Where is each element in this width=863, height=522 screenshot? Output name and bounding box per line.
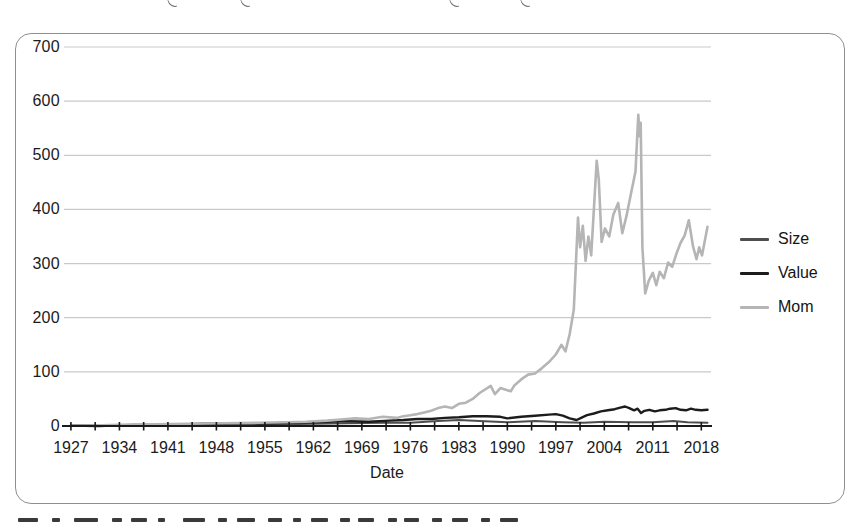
cropped-glyph-fragment <box>500 518 518 522</box>
cropped-glyph-fragment <box>112 518 122 522</box>
cropped-glyph-fragment <box>52 518 60 522</box>
x-tick-label-1969: 1969 <box>344 439 380 457</box>
cropped-glyph-fragment <box>340 518 350 522</box>
x-tick-label-1927: 1927 <box>53 439 89 457</box>
cropped-glyph-fragment <box>519 0 530 9</box>
y-tick-label-200: 200 <box>18 309 60 327</box>
cropped-glyph-fragment <box>131 518 147 522</box>
x-tick-label-1976: 1976 <box>393 439 429 457</box>
x-tick-label-1990: 1990 <box>490 439 526 457</box>
figure-page: 7006005004003002001000 19271934194119481… <box>0 0 863 522</box>
chart-panel: 7006005004003002001000 19271934194119481… <box>15 33 845 504</box>
cropped-glyph-fragment <box>388 518 397 522</box>
y-tick-label-400: 400 <box>18 200 60 218</box>
legend-line-swatch <box>740 238 769 241</box>
cropped-glyph-fragment <box>311 518 328 522</box>
cropped-glyph-fragment <box>268 518 282 522</box>
legend-line-swatch <box>740 306 769 309</box>
x-tick-label-1983: 1983 <box>441 439 477 457</box>
x-tick-label-2011: 2011 <box>636 439 670 457</box>
y-tick-label-600: 600 <box>18 92 60 110</box>
cropped-text-bottom <box>0 515 863 522</box>
cropped-glyph-fragment <box>237 518 255 522</box>
cropped-glyph-fragment <box>481 518 490 522</box>
legend-label: Value <box>778 264 818 282</box>
x-tick-label-2018: 2018 <box>684 439 720 457</box>
x-tick-label-1962: 1962 <box>296 439 332 457</box>
cropped-glyph-fragment <box>183 518 205 522</box>
cropped-glyph-fragment <box>166 0 177 9</box>
cropped-glyph-fragment <box>18 518 38 522</box>
cropped-glyph-fragment <box>158 518 165 522</box>
cropped-glyph-fragment <box>448 0 459 9</box>
y-tick-label-0: 0 <box>18 417 60 435</box>
cropped-glyph-fragment <box>293 518 301 522</box>
legend: SizeValueMom <box>740 222 818 324</box>
legend-label: Size <box>778 230 809 248</box>
legend-item-size: Size <box>740 222 818 256</box>
cropped-glyph-fragment <box>218 518 227 522</box>
y-tick-label-100: 100 <box>18 363 60 381</box>
x-tick-label-1997: 1997 <box>538 439 574 457</box>
legend-line-swatch <box>740 272 769 275</box>
legend-item-value: Value <box>740 256 818 290</box>
cropped-glyph-fragment <box>432 518 442 522</box>
cropped-glyph-fragment <box>452 518 468 522</box>
x-tick-label-1934: 1934 <box>102 439 138 457</box>
x-axis-title: Date <box>370 464 404 482</box>
y-tick-label-500: 500 <box>18 146 60 164</box>
legend-item-mom: Mom <box>740 290 818 324</box>
x-tick-label-2004: 2004 <box>587 439 623 457</box>
line-chart <box>16 34 841 500</box>
x-tick-label-1955: 1955 <box>247 439 283 457</box>
series-line-mom <box>71 115 708 426</box>
legend-label: Mom <box>778 298 814 316</box>
cropped-glyph-fragment <box>239 0 250 9</box>
x-tick-label-1941: 1941 <box>150 439 186 457</box>
cropped-glyph-fragment <box>74 518 98 522</box>
cropped-glyph-fragment <box>358 518 374 522</box>
cropped-text-top <box>0 0 863 10</box>
y-tick-label-700: 700 <box>18 38 60 56</box>
y-tick-label-300: 300 <box>18 255 60 273</box>
x-tick-label-1948: 1948 <box>199 439 235 457</box>
cropped-glyph-fragment <box>404 518 419 522</box>
